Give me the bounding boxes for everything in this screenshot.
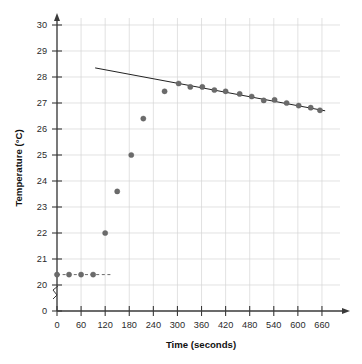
temperature-time-chart: 20212223242526272829300 0601201802403003… [0, 0, 362, 364]
data-point [66, 272, 71, 277]
y-tick-label-28: 28 [37, 72, 47, 82]
x-tick-label-120: 120 [98, 320, 113, 330]
data-point [200, 84, 205, 89]
x-tick-label-480: 480 [242, 320, 257, 330]
y-tick-label-24: 24 [37, 176, 47, 186]
y-tick-label-23: 23 [37, 202, 47, 212]
y-tick-label-29: 29 [37, 46, 47, 56]
y-tick-label-21: 21 [37, 254, 47, 264]
data-point [249, 94, 254, 99]
data-point [188, 84, 193, 89]
chart-svg: 20212223242526272829300 0601201802403003… [0, 0, 362, 364]
data-point [223, 89, 228, 94]
data-point [272, 97, 277, 102]
data-point [317, 108, 322, 113]
x-axis-arrow-icon [342, 308, 350, 314]
data-point [103, 230, 108, 235]
x-tick-label-300: 300 [170, 320, 185, 330]
data-point [162, 89, 167, 94]
y-axis-arrow-icon [54, 13, 60, 21]
data-point [78, 272, 83, 277]
y-tick-label-25: 25 [37, 150, 47, 160]
data-point [237, 91, 242, 96]
x-tick-label-180: 180 [122, 320, 137, 330]
y-tick-label-27: 27 [37, 98, 47, 108]
data-point [115, 189, 120, 194]
x-tick-label-600: 600 [290, 320, 305, 330]
y-tick-label-26: 26 [37, 124, 47, 134]
data-point [261, 98, 266, 103]
y-axis-ticks: 20212223242526272829300 [37, 20, 62, 316]
x-tick-label-240: 240 [146, 320, 161, 330]
y-tick-label-30: 30 [37, 20, 47, 30]
trend-line-segment [95, 68, 325, 111]
data-point [141, 116, 146, 121]
y-tick-label-22: 22 [37, 228, 47, 238]
data-point [54, 272, 59, 277]
data-points-layer [54, 81, 322, 277]
data-point [308, 105, 313, 110]
y-tick-label-20: 20 [37, 280, 47, 290]
x-tick-label-0: 0 [54, 320, 59, 330]
y-tick-label-zero: 0 [42, 306, 47, 316]
data-point [176, 81, 181, 86]
trend-line [95, 68, 325, 111]
x-axis-ticks: 060120180240300360420480540600660 [54, 306, 329, 330]
y-axis-title: Temperature (°C) [13, 129, 24, 206]
data-point [284, 100, 289, 105]
data-point [212, 87, 217, 92]
vertical-gridlines [57, 18, 322, 311]
x-tick-label-660: 660 [314, 320, 329, 330]
data-point [129, 152, 134, 157]
data-point [91, 272, 96, 277]
x-tick-label-540: 540 [266, 320, 281, 330]
x-tick-label-360: 360 [194, 320, 209, 330]
x-axis-title: Time (seconds) [166, 339, 236, 350]
x-tick-label-60: 60 [76, 320, 86, 330]
data-point [296, 103, 301, 108]
x-tick-label-420: 420 [218, 320, 233, 330]
